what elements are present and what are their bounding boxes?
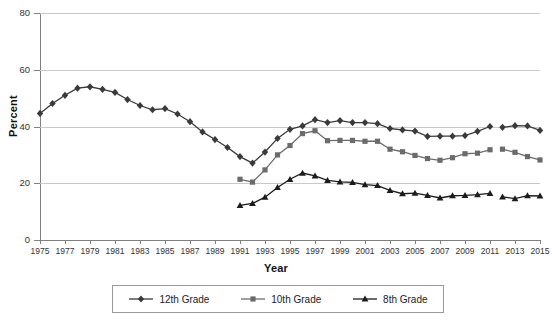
legend-item-8th-grade[interactable]: 8th Grade [352,293,427,305]
data-point [237,177,242,182]
x-tick-mark-1991 [240,240,241,244]
x-tick-mark-1995 [290,240,291,244]
series-10th-grade [237,128,542,185]
chart-legend: 12th Grade10th Grade8th Grade [112,285,444,313]
x-tick-mark-1987 [190,240,191,244]
x-tick-mark-2011 [490,240,491,244]
series-line [503,126,541,131]
data-point [237,153,243,160]
x-tick-mark-1999 [340,240,341,244]
legend-item-12th-grade[interactable]: 12th Grade [128,293,209,305]
data-point [375,139,380,144]
x-tick-label-2015: 2015 [522,246,552,256]
data-point [512,122,518,129]
data-point [362,119,368,126]
legend-label: 8th Grade [383,294,427,305]
data-point [474,128,480,135]
data-point [249,200,256,206]
x-tick-mark-1989 [215,240,216,244]
x-tick-mark-1981 [115,240,116,244]
data-point [499,124,505,131]
series-layer [40,13,540,240]
data-point [224,144,230,151]
data-point [537,127,543,134]
data-point [337,138,342,143]
y-tick-label-40: 40 [0,121,30,132]
y-axis-title: Percent [7,81,19,151]
data-point [412,153,417,158]
data-point [449,133,455,140]
data-point [212,136,218,143]
series-line [503,149,541,160]
data-point [387,125,393,132]
y-tick-label-0: 0 [0,234,30,245]
x-tick-mark-1985 [165,240,166,244]
data-point [349,119,355,126]
data-point [124,96,130,103]
data-point [499,193,506,199]
data-point [487,123,493,130]
data-point [324,119,330,126]
x-tick-mark-1975 [40,240,41,244]
data-point [275,152,280,157]
line-chart: Percent Year 020406080 19751977197919811… [0,0,552,325]
data-point [99,86,105,93]
data-point [250,180,255,185]
x-tick-mark-1979 [90,240,91,244]
data-point [162,105,168,112]
series-line [503,196,541,199]
x-tick-mark-2003 [390,240,391,244]
data-point [312,116,318,123]
data-point [337,117,343,124]
data-point [487,147,492,152]
data-point [362,139,367,144]
y-tick-label-20: 20 [0,177,30,188]
diamond-marker-icon [128,293,154,305]
x-tick-mark-1997 [315,240,316,244]
data-point [287,176,294,182]
data-point [312,128,317,133]
x-tick-mark-2001 [365,240,366,244]
x-tick-mark-2015 [540,240,541,244]
legend-item-10th-grade[interactable]: 10th Grade [240,293,321,305]
data-point [425,156,430,161]
series-8th-grade [237,170,544,208]
data-point [262,167,267,172]
data-point [299,170,306,176]
data-point [437,158,442,163]
y-tick-label-60: 60 [0,64,30,75]
legend-label: 12th Grade [159,294,209,305]
x-tick-mark-2009 [465,240,466,244]
data-point [74,85,80,92]
data-point [437,133,443,140]
data-point [350,138,355,143]
data-point [325,138,330,143]
y-tick-label-80: 80 [0,7,30,18]
x-tick-mark-1983 [140,240,141,244]
data-point [475,151,480,156]
data-point [399,126,405,133]
data-point [450,155,455,160]
x-tick-mark-1993 [265,240,266,244]
data-point [62,92,68,99]
data-point [400,149,405,154]
data-point [287,126,293,133]
data-point [299,122,305,129]
data-point [387,147,392,152]
data-point [412,127,418,134]
x-tick-mark-2005 [415,240,416,244]
x-tick-mark-2013 [515,240,516,244]
square-marker-icon [240,293,266,305]
data-point [174,110,180,117]
data-point [525,154,530,159]
data-point [524,122,530,129]
data-point [424,133,430,140]
triangle-marker-icon [352,293,378,305]
data-point [374,120,380,127]
data-point [462,151,467,156]
plot-area [40,13,540,240]
data-point [149,106,155,113]
data-point [500,147,505,152]
data-point [462,132,468,139]
data-point [274,184,281,190]
